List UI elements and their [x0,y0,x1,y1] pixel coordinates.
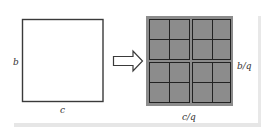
partition-diagram: b c b/q c/q [0,0,266,133]
arrow-right-icon [114,51,143,71]
frame-right-edge [258,16,261,127]
cell-height-label-b-over-q: b/q [237,61,252,71]
cell-width-label-c-over-q: c/q [182,112,196,122]
width-label-c: c [60,105,65,115]
height-label-b: b [13,57,19,67]
original-square [23,20,104,102]
partitioned-grid [146,16,233,106]
frame-bottom-edge [14,123,261,127]
